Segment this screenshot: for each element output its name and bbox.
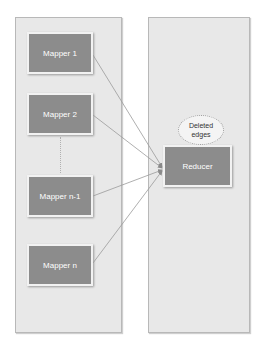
- mapper-n-label: Mapper n: [43, 261, 77, 270]
- mapper-n-1-label: Mapper n-1: [40, 192, 81, 201]
- deleted-edges-annotation: Deleted edges: [178, 115, 224, 145]
- reducer-node: Reducer: [163, 145, 232, 187]
- mapper-1-label: Mapper 1: [43, 49, 77, 58]
- reducer-label: Reducer: [182, 162, 212, 171]
- annotation-line-1: Deleted: [189, 121, 213, 130]
- mapper-2-node: Mapper 2: [27, 93, 93, 135]
- mapper-n-1-node: Mapper n-1: [27, 175, 93, 217]
- mapper-1-node: Mapper 1: [27, 32, 93, 74]
- ellipsis-connector: [60, 137, 61, 173]
- annotation-line-2: edges: [191, 130, 210, 139]
- mapper-n-node: Mapper n: [27, 244, 93, 286]
- mapper-2-label: Mapper 2: [43, 110, 77, 119]
